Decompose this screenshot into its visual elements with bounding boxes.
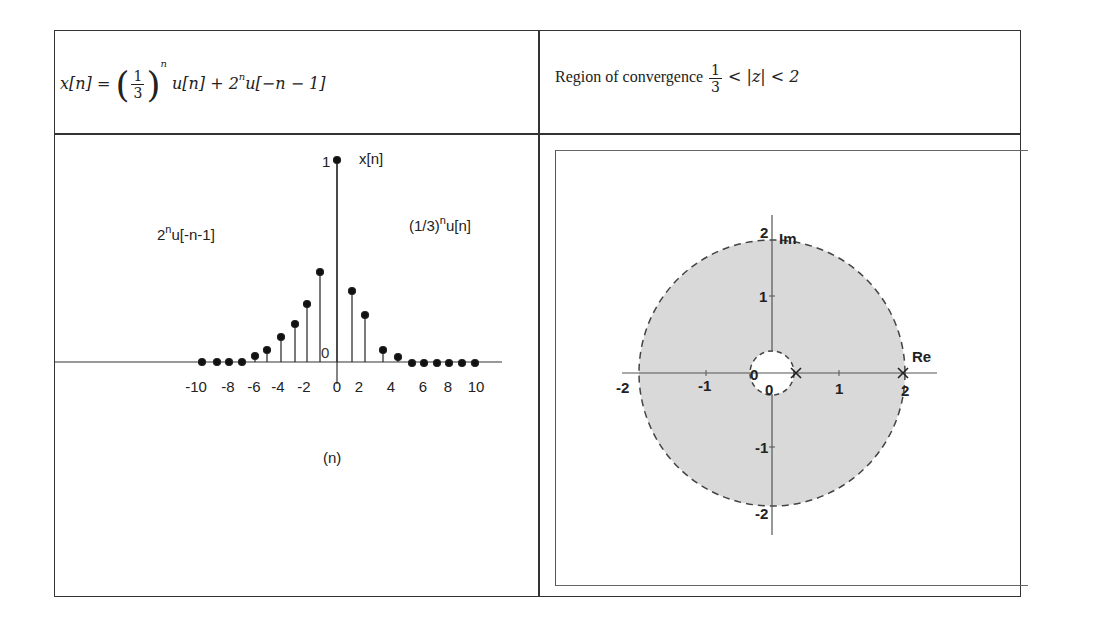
re-tick-1: 1 — [835, 380, 843, 397]
origin-label-upper: 0 — [750, 366, 758, 383]
im-tick-neg2: -2 — [755, 505, 768, 522]
im-tick-neg1: -1 — [755, 439, 768, 456]
re-tick-2: 2 — [901, 382, 909, 399]
re-label: Re — [912, 348, 931, 365]
re-tick-neg2: -2 — [616, 379, 629, 396]
im-tick-1: 1 — [759, 288, 767, 305]
im-tick-2: 2 — [760, 224, 768, 241]
pole-zero-plot: Im Re -2 -1 0 0 1 2 2 1 -1 -2 — [0, 0, 1108, 635]
origin-label-lower: 0 — [765, 381, 773, 398]
re-tick-neg1: -1 — [698, 377, 711, 394]
im-label: Im — [779, 230, 797, 247]
